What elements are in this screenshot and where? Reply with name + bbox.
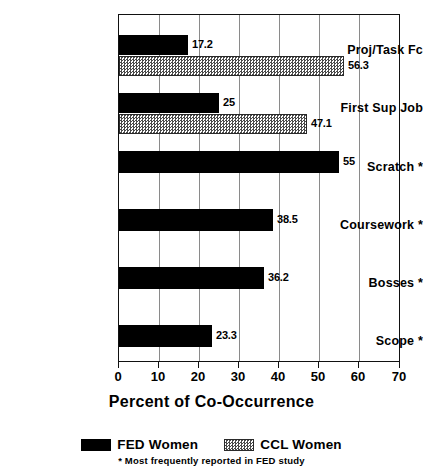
bar-fed-first-sup-job [119,93,219,113]
xtick-mark-50 [318,362,319,368]
xtick-label-40: 40 [263,370,293,383]
bar-ccl-proj-task-fc [119,56,344,76]
solid-black-swatch-icon [81,439,111,451]
chart-footnote: * Most frequently reported in FED study [0,455,423,466]
xtick-label-30: 30 [223,370,253,383]
bar-value-fed-coursework: 38.5 [277,214,298,225]
legend-item-ccl-women: CCL Women [224,437,342,452]
x-axis-title: Percent of Co-Occurrence [0,393,423,411]
bar-fed-coursework [119,209,273,231]
category-label-bosses: Bosses * [311,277,423,290]
bar-value-ccl-first-sup-job: 47.1 [311,118,332,129]
xtick-label-50: 50 [303,370,333,383]
category-label-coursework: Coursework * [311,219,423,232]
xtick-mark-30 [238,362,239,368]
bar-value-fed-bosses: 36.2 [268,272,289,283]
xtick-label-70: 70 [384,370,414,383]
xtick-label-20: 20 [183,370,213,383]
bar-value-fed-first-sup-job: 25 [223,97,235,108]
legend-label-fed-women: FED Women [117,437,198,452]
bar-fed-scratch [119,151,339,173]
category-label-proj-task-fc: Proj/Task Fc [311,44,423,57]
xtick-mark-10 [158,362,159,368]
bar-value-ccl-proj-task-fc: 56.3 [348,60,369,71]
xtick-mark-60 [358,362,359,368]
legend-label-ccl-women: CCL Women [260,437,342,452]
bar-chart: 17.2 56.3 25 47.1 55 38.5 36.2 23.3 Proj… [0,0,423,473]
bar-fed-bosses [119,267,264,289]
chart-legend: FED Women CCL Women [0,437,423,452]
bar-ccl-first-sup-job [119,114,307,134]
bar-fed-scope [119,325,212,347]
bar-fed-proj-task-fc [119,35,188,55]
category-label-scope: Scope * [311,335,423,348]
category-label-scratch: Scratch * [311,161,423,174]
xtick-mark-70 [399,362,400,368]
xtick-mark-20 [198,362,199,368]
legend-item-fed-women: FED Women [81,437,198,452]
xtick-label-0: 0 [103,370,133,383]
bar-value-fed-scope: 23.3 [216,330,237,341]
xtick-label-60: 60 [343,370,373,383]
xtick-mark-0 [118,362,119,368]
xtick-label-10: 10 [143,370,173,383]
xtick-mark-40 [278,362,279,368]
category-label-first-sup-job: First Sup Job [311,102,423,115]
hatched-gray-swatch-icon [224,439,254,451]
bar-value-fed-proj-task-fc: 17.2 [192,39,213,50]
